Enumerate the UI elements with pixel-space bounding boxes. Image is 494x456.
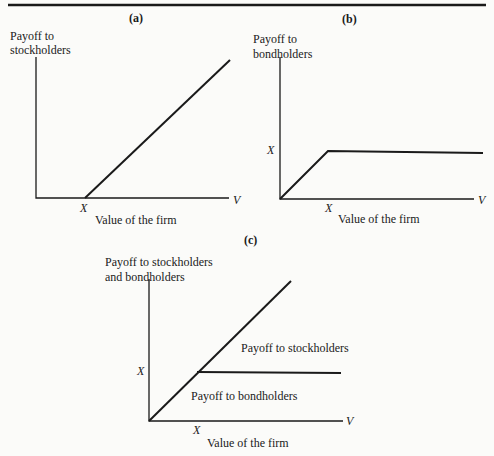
panel-c-ylabel-2: and bondholders bbox=[105, 270, 185, 284]
panel-c-ylabel-1: Payoff to stockholders bbox=[105, 255, 213, 269]
panel-c-y-tick: X bbox=[137, 364, 144, 378]
panel-c-region-upper: Payoff to stockholders bbox=[241, 341, 349, 355]
panel-b-ylabel-2: bondholders bbox=[253, 47, 312, 61]
panel-c-label: (c) bbox=[244, 233, 257, 247]
panel-c-xlabel: Value of the firm bbox=[207, 436, 289, 450]
panel-a-ylabel-1: Payoff to bbox=[10, 29, 54, 43]
axes-a bbox=[36, 57, 229, 198]
panel-c-v-label: V bbox=[346, 414, 353, 428]
panel-a-x-tick: X bbox=[80, 201, 87, 215]
diagram-lines bbox=[0, 0, 494, 456]
panel-b-xlabel: Value of the firm bbox=[338, 212, 420, 226]
panel-b-ylabel-1: Payoff to bbox=[253, 32, 297, 46]
stock-payoff-line-a bbox=[85, 60, 230, 198]
panel-b-label: (b) bbox=[342, 12, 357, 26]
panel-b-y-tick: X bbox=[267, 143, 274, 157]
bond-payoff-line-b bbox=[280, 151, 483, 199]
panel-a-v-label: V bbox=[233, 193, 240, 207]
axes-b bbox=[280, 57, 474, 199]
panel-a-xlabel: Value of the firm bbox=[95, 213, 177, 227]
panel-b-x-tick: X bbox=[325, 201, 332, 215]
bond-cap-line-c bbox=[197, 372, 341, 373]
panel-c-region-lower: Payoff to bondholders bbox=[191, 389, 297, 403]
panel-a-ylabel-2: stockholders bbox=[10, 43, 71, 57]
panel-b-v-label: V bbox=[478, 193, 485, 207]
panel-a-label: (a) bbox=[129, 11, 143, 25]
panel-c-x-tick: X bbox=[193, 423, 200, 437]
